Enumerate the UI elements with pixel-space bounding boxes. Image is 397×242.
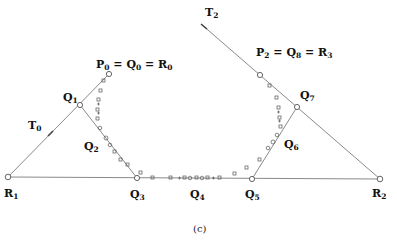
label-p2-q8-r3: P2 = Q8 = R3 — [256, 46, 332, 60]
tangent-line-t0 — [8, 74, 109, 177]
label-q7: Q7 — [300, 89, 315, 103]
label-q4: Q4 — [190, 188, 205, 202]
label-t0: T0 — [28, 119, 41, 133]
label-q6: Q6 — [284, 138, 299, 152]
point-q7-icon — [294, 104, 299, 109]
base-line — [8, 177, 380, 179]
t0-arrow-icon — [48, 131, 53, 136]
label-q5: Q5 — [245, 188, 260, 202]
figure-caption: (c) — [193, 223, 207, 234]
label-r1: R1 — [4, 187, 18, 201]
label-t2: T2 — [205, 6, 218, 20]
tangent-arrows — [48, 24, 207, 136]
t2-arrow-icon — [201, 24, 207, 29]
point-p0-icon — [106, 71, 111, 76]
bezier-subdivision-diagram: P0 = Q0 = R0 P2 = Q8 = R3 Q1 T0 Q2 R1 Q3… — [0, 0, 397, 242]
label-q3: Q3 — [130, 188, 145, 202]
curve-samples — [96, 79, 282, 180]
label-r2: R2 — [372, 187, 386, 201]
label-q2: Q2 — [84, 140, 99, 154]
point-r1-icon — [5, 174, 11, 180]
label-p0-q0-r0: P0 = Q0 = R0 — [96, 58, 172, 72]
point-r2-icon — [377, 176, 383, 182]
key-point-markers — [5, 71, 383, 181]
point-p2-icon — [257, 72, 262, 77]
curve-plus-marks — [97, 103, 281, 180]
point-q1-icon — [77, 102, 82, 107]
label-q1: Q1 — [63, 91, 78, 105]
point-q5-icon — [249, 176, 254, 181]
point-q3-icon — [134, 175, 139, 180]
